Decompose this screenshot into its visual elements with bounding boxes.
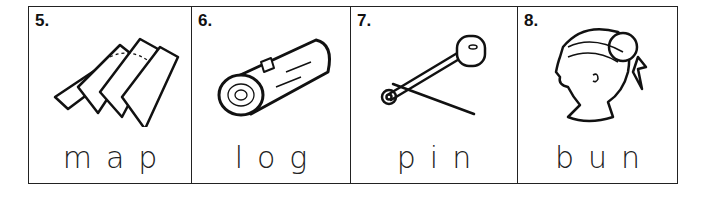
girl-hair-bun-icon xyxy=(518,17,677,127)
log-icon xyxy=(192,17,350,127)
item-cell-bun: 8. bun xyxy=(518,7,677,183)
item-word: log xyxy=(192,140,350,175)
word-picture-grid: 5. map 6. log 7. xyxy=(28,6,678,184)
item-cell-map: 5. map xyxy=(29,7,192,183)
folded-map-icon xyxy=(29,17,191,127)
item-cell-log: 6. log xyxy=(192,7,351,183)
item-word: map xyxy=(29,140,191,175)
item-cell-pin: 7. pin xyxy=(351,7,518,183)
item-word: bun xyxy=(518,140,677,175)
safety-pin-icon xyxy=(351,17,517,127)
item-word: pin xyxy=(351,140,517,175)
